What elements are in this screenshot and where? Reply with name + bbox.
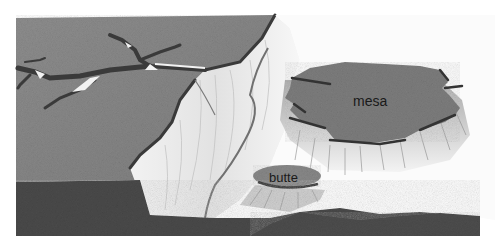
landform-illustration — [0, 0, 495, 249]
butte-label: butte — [269, 171, 298, 184]
mesa-label: mesa — [353, 94, 387, 108]
